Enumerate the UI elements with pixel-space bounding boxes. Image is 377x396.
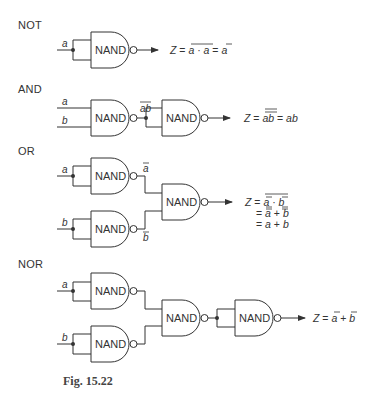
gate-label: NAND — [95, 338, 126, 350]
input-label-b: b — [62, 217, 68, 228]
intermediate-label-ab-bar: ab — [140, 103, 152, 114]
gate-label: NAND — [95, 285, 126, 297]
svg-text:= a + b: = a + b — [256, 218, 289, 230]
svg-text:Z = ab = ab: Z = ab = ab — [243, 112, 298, 124]
nor-equation: Z = a + b — [312, 312, 357, 324]
gate-label: NAND — [95, 223, 126, 235]
input-label-a: a — [62, 38, 68, 49]
gate-label: NAND — [95, 112, 126, 124]
gate-label: NAND — [95, 170, 126, 182]
input-label-b: b — [62, 115, 68, 126]
input-label-a: a — [62, 164, 68, 175]
gate-label: NAND — [239, 312, 270, 324]
svg-text:Z = a + b: Z = a + b — [312, 312, 355, 324]
svg-text:Z = a · a = a: Z = a · a = a — [169, 44, 227, 56]
gate-label: NAND — [95, 44, 126, 56]
and-equation: Z = ab = ab — [243, 109, 298, 124]
gate-label: NAND — [166, 112, 197, 124]
intermediate-label-b-bar: b — [143, 232, 149, 243]
input-label-a: a — [62, 96, 68, 107]
figure-caption: Fig. 15.22 — [63, 374, 113, 389]
input-label-b: b — [62, 332, 68, 343]
logic-diagram: NAND NAND NAND NAND NAND NAND NAND NAND … — [0, 0, 377, 396]
not-equation: Z = a · a = a — [169, 44, 232, 56]
gate-label: NAND — [166, 312, 197, 324]
input-label-a: a — [62, 279, 68, 290]
gate-label: NAND — [166, 196, 197, 208]
intermediate-label-a-bar: a — [143, 163, 149, 174]
or-equation: Z = a · b = a + b = a + b — [244, 194, 289, 230]
